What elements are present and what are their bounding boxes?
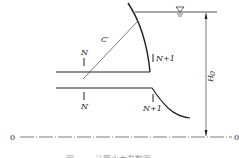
figure-caption: 图 …… 计算水力参数图 <box>66 154 151 158</box>
curve-c-label: C′ <box>101 35 109 44</box>
curve-c-line <box>83 22 137 79</box>
section-n-lower-label: N <box>80 102 89 111</box>
datum-right-label: 0 <box>234 133 239 142</box>
head-arrow-bottom <box>205 130 208 136</box>
water-surface-icon <box>176 7 184 16</box>
section-n-upper-label: N <box>80 48 89 57</box>
reservoir-arc-wall <box>128 3 150 72</box>
datum-left-label: 0 <box>10 133 15 142</box>
head-arrow-top <box>205 13 208 19</box>
head-label-subscript: 0 <box>208 71 217 76</box>
flow-diagram: C′ N N N+1 N+1 H 0 0 0 图 …… 计算水力参数图 <box>0 0 239 158</box>
section-n1-upper-label: N+1 <box>155 54 175 63</box>
section-n1-lower-label: N+1 <box>142 104 162 113</box>
conduit-lower-wall <box>56 88 190 118</box>
